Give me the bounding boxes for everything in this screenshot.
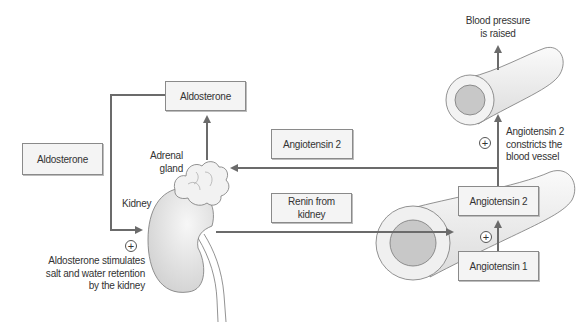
aldosterone-effect-line1: Aldosterone stimulates (40, 255, 145, 268)
angiotensin2-effect-label: Angiotensin 2 constricts the blood vesse… (506, 126, 564, 164)
aldosterone-left-box: Aldosterone (22, 143, 103, 175)
angiotensin1-box: Angiotensin 1 (458, 251, 539, 281)
adrenal-gland-label: Adrenal gland (145, 150, 183, 175)
angiotensin2-right-box: Angiotensin 2 (458, 186, 539, 216)
aldosterone-top-box: Aldosterone (165, 81, 246, 111)
plus-circle-icon: + (125, 240, 137, 252)
plus-circle-icon: + (479, 137, 491, 149)
aldosterone-effect-label: Aldosterone stimulates salt and water re… (40, 255, 145, 293)
blood-vessel-upper (446, 47, 563, 125)
aldosterone-effect-line3: by the kidney (40, 280, 145, 293)
aldosterone-effect-line2: salt and water retention (40, 268, 145, 281)
bp-line1: Blood pressure (458, 15, 538, 28)
adrenal-label-line2: gland (145, 163, 183, 176)
plus-circle-icon: + (480, 231, 492, 243)
adrenal-label-line1: Adrenal (145, 150, 183, 163)
ang2-effect-line2: constricts the (506, 139, 564, 152)
ang2-effect-line3: blood vessel (506, 151, 564, 164)
ang2-effect-line1: Angiotensin 2 (506, 126, 564, 139)
renin-box: Renin from kidney (271, 193, 352, 223)
kidney-illustration (148, 188, 226, 322)
blood-pressure-label: Blood pressure is raised (458, 15, 538, 40)
kidney-label: Kidney (122, 198, 151, 211)
angiotensin2-middle-box: Angiotensin 2 (271, 129, 353, 159)
bp-line2: is raised (458, 28, 538, 41)
